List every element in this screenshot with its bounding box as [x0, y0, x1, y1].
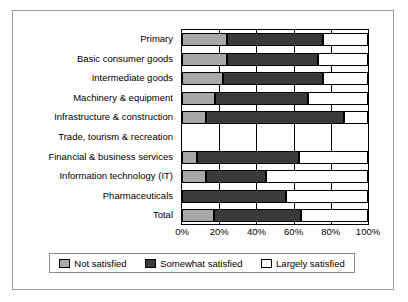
bar-segment [215, 92, 308, 105]
bar-segment [182, 209, 214, 222]
bar-segment [214, 209, 301, 222]
bar-segment [206, 111, 344, 124]
bar-segment [299, 151, 368, 164]
bar-row [182, 128, 368, 148]
bar-segment [182, 190, 286, 203]
bar-segment [308, 92, 368, 105]
bar-row [182, 108, 368, 128]
legend-item: Largely satisfied [261, 258, 345, 269]
chart-container: PrimaryBasic consumer goodsIntermediate … [12, 10, 394, 290]
bar-row [182, 187, 368, 207]
category-label: Machinery & equipment [73, 88, 173, 108]
bar-segment [344, 111, 368, 124]
chart-legend: Not satisfiedSomewhat satisfiedLargely s… [49, 253, 355, 273]
legend-label: Largely satisfied [276, 258, 345, 269]
x-tick-label: 80% [321, 226, 340, 237]
bar-row [182, 30, 368, 50]
x-tick-label: 40% [247, 226, 266, 237]
category-label: Primary [140, 29, 173, 49]
category-axis-labels: PrimaryBasic consumer goodsIntermediate … [17, 29, 177, 225]
legend-swatch-icon [59, 259, 70, 268]
bar-segment [206, 170, 266, 183]
bar-segment [182, 33, 227, 46]
category-label: Financial & business services [48, 147, 173, 167]
bar-row [182, 69, 368, 89]
legend-swatch-icon [261, 259, 272, 268]
bar-segment [318, 53, 368, 66]
bar-row [182, 50, 368, 70]
bar-row [182, 167, 368, 187]
category-label: Trade, tourism & recreation [58, 127, 173, 147]
x-tick-label: 20% [210, 226, 229, 237]
legend-swatch-icon [145, 259, 156, 268]
bar-segment [286, 190, 368, 203]
legend-label: Somewhat satisfied [160, 258, 242, 269]
bar-segment [227, 33, 324, 46]
category-label: Pharmaceuticals [103, 186, 173, 206]
bar-segment [301, 209, 368, 222]
bar-segment [182, 53, 227, 66]
legend-label: Not satisfied [74, 258, 126, 269]
bar-segment [223, 72, 323, 85]
bar-row [182, 89, 368, 109]
bar-segment [323, 72, 368, 85]
category-label: Information technology (IT) [59, 166, 173, 186]
bar-segment [182, 151, 197, 164]
x-tick-label: 60% [284, 226, 303, 237]
bar-row [182, 206, 368, 226]
bar-segment [182, 92, 215, 105]
bar-segment [323, 33, 368, 46]
x-axis-tick-labels: 0%20%40%60%80%100% [181, 226, 369, 240]
bar-row [182, 148, 368, 168]
plot-area: PrimaryBasic consumer goodsIntermediate … [13, 11, 395, 243]
legend-item: Somewhat satisfied [145, 258, 242, 269]
bar-segment [182, 72, 223, 85]
x-tick-label: 100% [356, 226, 380, 237]
category-label: Total [153, 205, 173, 225]
legend-item: Not satisfied [59, 258, 126, 269]
bar-segment [197, 151, 299, 164]
category-label: Intermediate goods [92, 68, 173, 88]
x-tick-label: 0% [175, 226, 189, 237]
bar-segment [182, 170, 206, 183]
category-label: Basic consumer goods [77, 49, 173, 69]
bar-segment [266, 170, 368, 183]
plot-box [181, 29, 369, 225]
category-label: Infrastructure & construction [54, 107, 173, 127]
bar-segment [182, 111, 206, 124]
bar-segment [227, 53, 318, 66]
